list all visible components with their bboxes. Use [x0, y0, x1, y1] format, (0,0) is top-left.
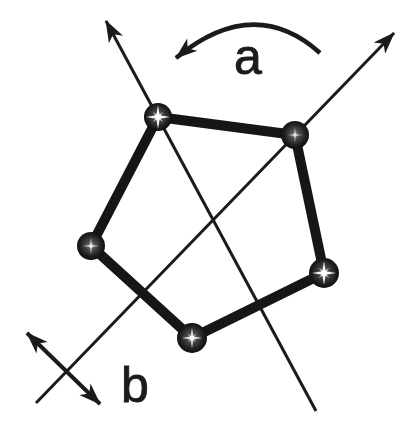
label-b: b	[121, 357, 149, 413]
ring-bond	[91, 117, 158, 246]
ring-bond	[192, 273, 324, 338]
axis-line-upper-left-arrow	[106, 21, 316, 411]
label-a: a	[234, 29, 262, 85]
atom-bottom	[177, 323, 207, 353]
ring-bond	[158, 117, 295, 135]
axis-line-upper-right-arrow	[36, 33, 394, 403]
atom-right	[309, 258, 339, 288]
atom-left	[77, 232, 105, 260]
ring-molecule-diagram: a b	[0, 0, 415, 431]
atom-top	[144, 103, 172, 131]
double-headed-arrow	[27, 333, 100, 404]
ring-bond	[91, 246, 192, 338]
figure-canvas: a b	[0, 0, 415, 431]
atom-top-right	[281, 121, 309, 149]
ring-bond	[295, 135, 324, 273]
